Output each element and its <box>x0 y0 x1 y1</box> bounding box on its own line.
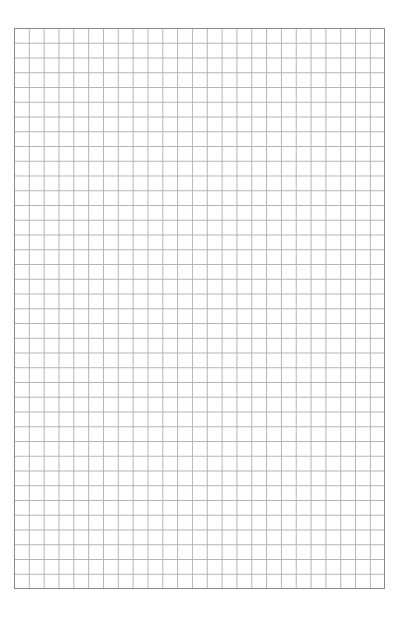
graph-paper-grid <box>14 28 385 589</box>
